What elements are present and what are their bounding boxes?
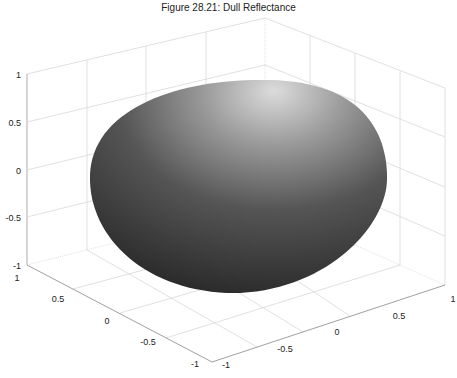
z-tick: -0.5 bbox=[5, 213, 21, 223]
y-tick: 1 bbox=[14, 273, 19, 283]
z-tick: 0.5 bbox=[8, 118, 21, 128]
z-tick: 1 bbox=[16, 70, 21, 80]
x-tick: -0.5 bbox=[277, 344, 293, 354]
sphere-surface bbox=[90, 80, 387, 293]
x-tick: 1 bbox=[450, 294, 455, 304]
x-tick: 0.5 bbox=[393, 311, 406, 321]
y-tick: 0 bbox=[104, 316, 109, 326]
z-tick: -1 bbox=[13, 261, 21, 271]
y-tick: -0.5 bbox=[140, 337, 156, 347]
sphere-plot: 1 0.5 0 -0.5 -1 1 0.5 0 -0.5 -1 -1 -0.5 … bbox=[0, 0, 457, 378]
x-tick: -1 bbox=[222, 360, 230, 370]
y-tick: 0.5 bbox=[52, 294, 65, 304]
z-tick: 0 bbox=[16, 166, 21, 176]
y-tick: -1 bbox=[191, 359, 199, 369]
x-tick: 0 bbox=[334, 327, 339, 337]
